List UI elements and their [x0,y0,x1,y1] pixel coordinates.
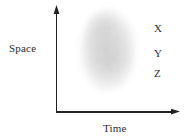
region-label-y: Y [154,47,162,59]
region-label-z: Z [154,67,161,79]
y-axis-label: Space [9,42,36,54]
y-axis-arrowhead [54,5,60,14]
space-time-diagram: Space Time X Y Z [0,0,186,140]
x-axis-arrowhead [171,109,180,115]
region-label-x: X [154,22,162,34]
x-axis-label: Time [103,122,127,134]
